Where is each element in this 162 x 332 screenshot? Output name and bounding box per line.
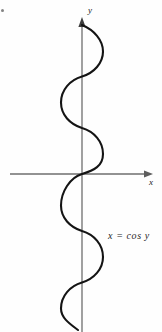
equation-annotation: x = cos y — [108, 230, 150, 241]
figure-canvas: y x x = cos y — [0, 0, 162, 332]
x-axis-label: x — [149, 178, 153, 187]
y-axis-label: y — [88, 6, 92, 15]
dot-artifact-icon — [1, 9, 4, 12]
cosine-plot-svg — [0, 0, 162, 332]
